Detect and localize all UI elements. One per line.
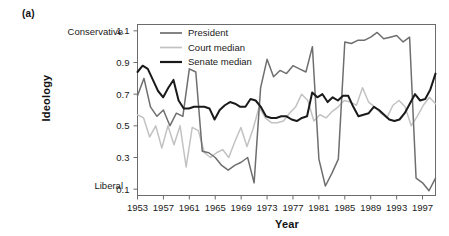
axis-label-conservative: Conservative <box>68 26 123 37</box>
x-tick-label: 1985 <box>334 202 355 213</box>
y-tick-marks <box>134 31 138 189</box>
x-tick-label: 1977 <box>282 202 303 213</box>
y-tick-labels: 1.10.90.70.50.30.1 <box>116 25 129 194</box>
x-tick-label: 1969 <box>231 202 252 213</box>
x-axis-title: Year <box>137 218 437 230</box>
figure-panel-a: (a) Conservative Liberal Ideology Year 1… <box>0 0 449 236</box>
x-tick-label: 1989 <box>360 202 381 213</box>
x-tick-label: 1997 <box>412 202 433 213</box>
legend-label-court-median: Court median <box>188 42 245 53</box>
x-tick-label: 1961 <box>179 202 200 213</box>
panel-tag: (a) <box>22 8 35 19</box>
x-tick-marks <box>138 196 423 200</box>
x-tick-label: 1965 <box>205 202 226 213</box>
legend-label-president: President <box>188 27 228 38</box>
x-tick-labels: 1953195719611965196919731977198119851989… <box>127 202 433 213</box>
y-tick-label: 0.7 <box>116 89 129 100</box>
chart-legend: PresidentCourt medianSenate median <box>160 27 252 67</box>
x-tick-label: 1957 <box>153 202 174 213</box>
axis-label-liberal: Liberal <box>94 180 123 191</box>
series-line-president <box>138 32 436 190</box>
y-tick-label: 0.9 <box>116 57 129 68</box>
y-tick-label: 0.5 <box>116 120 129 131</box>
data-series-layer <box>138 32 436 190</box>
y-axis-title: Ideology <box>40 43 52 153</box>
x-tick-label: 1981 <box>308 202 329 213</box>
legend-label-senate-median: Senate median <box>188 56 252 67</box>
x-tick-label: 1953 <box>127 202 148 213</box>
x-tick-label: 1993 <box>386 202 407 213</box>
y-tick-label: 0.3 <box>116 152 129 163</box>
series-line-court-median <box>138 88 436 167</box>
x-tick-label: 1973 <box>256 202 277 213</box>
